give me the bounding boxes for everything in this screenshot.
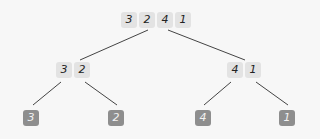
leaf-node: 1: [279, 110, 295, 126]
right-child-node: 4 1: [227, 62, 261, 78]
root-cell: 4: [157, 12, 173, 28]
root-node: 3 2 4 1: [121, 12, 191, 28]
left-child-cell: 2: [74, 62, 90, 78]
root-cell: 3: [121, 12, 137, 28]
left-child-cell: 3: [56, 62, 72, 78]
right-child-cell: 1: [245, 62, 261, 78]
left-child-node: 3 2: [56, 62, 90, 78]
leaf-node: 3: [23, 110, 39, 126]
root-cell: 2: [139, 12, 155, 28]
leaf-node: 4: [195, 110, 211, 126]
leaf-node: 2: [108, 110, 124, 126]
root-cell: 1: [175, 12, 191, 28]
right-child-cell: 4: [227, 62, 243, 78]
